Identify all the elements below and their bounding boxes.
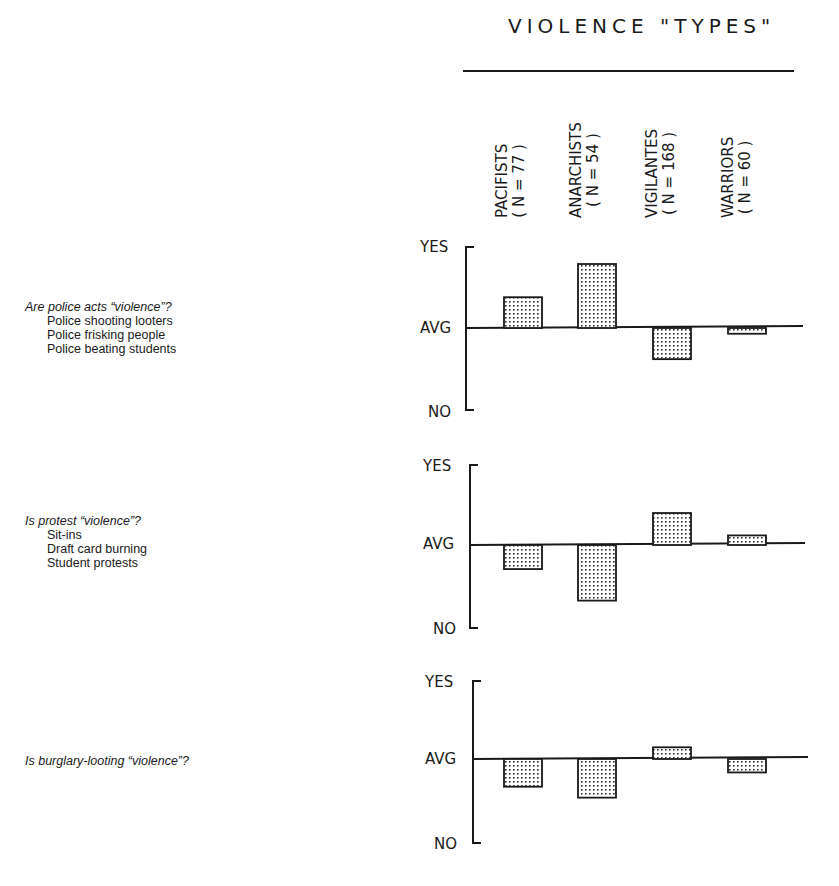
panel-2-y-axis [470,465,478,628]
chart-canvas [0,0,839,886]
panel-1-bar-pacifists [504,297,542,328]
panel-3-bar-warriors [728,759,766,772]
panel-3-bar-vigilantes [653,747,691,759]
panel-2-bar-vigilantes [653,513,691,545]
panel-1-bar-warriors [728,328,766,334]
panel-2-bar-warriors [728,535,766,545]
panel-3-bar-pacifists [504,759,542,787]
panel-3-y-axis [473,681,481,843]
panel-1-bar-anarchists [578,264,616,328]
bar-panels [466,247,808,843]
panel-3-bar-anarchists [578,759,616,798]
panel-2-bar-pacifists [504,545,542,569]
panel-2-bar-anarchists [578,545,616,601]
panel-1-bar-vigilantes [653,328,691,359]
